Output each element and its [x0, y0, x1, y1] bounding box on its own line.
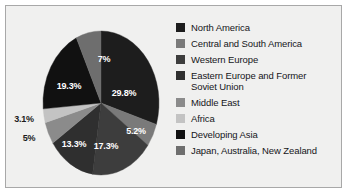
legend-item-middle-east[interactable]: Middle East — [176, 97, 336, 108]
legend-item-north-america[interactable]: North America — [176, 22, 336, 33]
legend-item-label: Africa — [191, 113, 215, 124]
pie-label-africa: 3.1% — [14, 114, 34, 124]
legend-item-label: Central and South America — [191, 38, 302, 49]
pie-chart: 29.8%5.2%17.3%13.3%5%3.1%19.3%7% — [32, 20, 168, 176]
legend-item-western-europe[interactable]: Western Europe — [176, 54, 336, 65]
pie-chart-figure: 29.8%5.2%17.3%13.3%5%3.1%19.3%7% North A… — [0, 0, 347, 193]
legend-item-label: Japan, Australia, New Zealand — [191, 145, 317, 156]
pie-slices — [32, 20, 168, 176]
legend-swatch-icon — [176, 98, 185, 107]
pie-label-japan-australia-new-zealand: 7% — [98, 54, 111, 64]
pie-label-eastern-europe-and-former-soviet-union: 13.3% — [62, 139, 87, 149]
chart-legend: North AmericaCentral and South AmericaWe… — [176, 22, 336, 161]
legend-swatch-icon — [176, 39, 185, 48]
legend-item-label: Eastern Europe and Former Soviet Union — [191, 70, 306, 92]
pie-label-middle-east: 5% — [23, 133, 36, 143]
legend-item-label: Middle East — [191, 97, 240, 108]
legend-swatch-icon — [176, 55, 185, 64]
legend-swatch-icon — [176, 130, 185, 139]
legend-item-eastern-europe-and-former-soviet-union[interactable]: Eastern Europe and Former Soviet Union — [176, 70, 336, 92]
legend-swatch-icon — [176, 114, 185, 123]
legend-item-central-and-south-america[interactable]: Central and South America — [176, 38, 336, 49]
chart-panel: 29.8%5.2%17.3%13.3%5%3.1%19.3%7% North A… — [5, 5, 342, 188]
legend-item-label: Western Europe — [191, 54, 258, 65]
pie-label-central-and-south-america: 5.2% — [126, 126, 146, 136]
legend-swatch-icon — [176, 23, 185, 32]
legend-item-japan-australia-new-zealand[interactable]: Japan, Australia, New Zealand — [176, 145, 336, 156]
legend-swatch-icon — [176, 71, 185, 80]
legend-item-label: North America — [191, 22, 250, 33]
legend-item-africa[interactable]: Africa — [176, 113, 336, 124]
legend-item-developing-asia[interactable]: Developing Asia — [176, 129, 336, 140]
legend-item-label: Developing Asia — [191, 129, 258, 140]
pie-label-western-europe: 17.3% — [94, 141, 119, 151]
pie-label-developing-asia: 19.3% — [57, 81, 82, 91]
pie-label-north-america: 29.8% — [112, 88, 137, 98]
legend-swatch-icon — [176, 146, 185, 155]
